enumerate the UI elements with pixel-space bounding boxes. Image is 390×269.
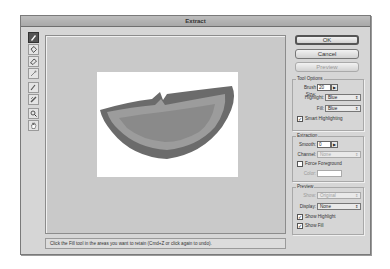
channel-label: Channel: [294,151,316,158]
eyedropper-icon [30,70,37,77]
edge-touchup-tool[interactable] [28,94,39,105]
tool-options-group: Tool Options Brush Size: 20 ▶ Highlight:… [292,79,364,131]
preview-options-group: Preview Show: Original⇕ Display: None⇕ ✓… [292,187,364,235]
channel-select[interactable]: None⇕ [317,151,361,158]
updown-arrow-icon: ⇕ [355,106,358,111]
highlight-value: Blue [328,95,337,100]
show-highlight-checkbox[interactable]: ✓ [297,214,303,220]
ok-button[interactable]: OK [295,35,359,45]
eraser-tool[interactable] [28,56,39,67]
hand-icon [30,122,37,129]
extraction-group: Extraction Smooth: 0 ▶ Channel: None⇕ Fo… [292,136,364,182]
fill-select[interactable]: Blue⇕ [325,105,361,112]
edge-highlighter-tool[interactable] [28,32,39,43]
cancel-button[interactable]: Cancel [295,49,359,59]
channel-value: None [320,152,331,157]
color-swatch[interactable] [317,170,342,177]
window-title[interactable]: Extract [21,16,370,27]
toolbar [28,32,39,132]
force-foreground-checkbox[interactable] [297,161,303,167]
show-fill-label: Show Fill [305,222,324,229]
display-value: None [320,204,331,209]
show-fill-checkbox[interactable]: ✓ [297,223,303,229]
image-canvas[interactable] [97,72,238,177]
edge-highlighter-icon [30,34,37,41]
display-select[interactable]: None⇕ [317,203,361,210]
updown-arrow-icon: ⇕ [355,193,358,198]
smooth-input[interactable]: 0 [317,141,331,148]
edge-touchup-icon [30,96,37,103]
preview-button[interactable]: Preview [295,62,359,72]
fill-label: Fill: [294,105,324,112]
smart-highlighting-checkbox[interactable]: ✓ [297,116,303,122]
hand-tool[interactable] [28,120,39,131]
display-label: Display: [294,203,316,210]
highlight-label: Highlight: [294,94,324,101]
color-label: Color: [294,170,316,177]
extraction-title: Extraction [296,133,318,138]
show-select[interactable]: Original⇕ [317,192,361,199]
updown-arrow-icon: ⇕ [355,152,358,157]
zoom-tool[interactable] [28,108,39,119]
eraser-icon [30,58,37,65]
updown-arrow-icon: ⇕ [355,95,358,100]
extract-dialog: Extract [20,15,371,255]
smooth-label: Smooth: [294,141,316,148]
force-foreground-label: Force Foreground [305,160,342,167]
tool-options-title: Tool Options [296,76,324,81]
fill-tool[interactable] [28,44,39,55]
cleanup-tool[interactable] [28,82,39,93]
updown-arrow-icon: ⇕ [355,204,358,209]
eyedropper-tool[interactable] [28,68,39,79]
brush-size-input[interactable]: 20 [317,84,331,91]
highlight-select[interactable]: Blue⇕ [325,94,361,101]
magnifier-icon [30,110,37,117]
fill-value: Blue [328,106,337,111]
show-highlight-label: Show Highlight [305,213,336,220]
preview-area[interactable] [45,35,286,234]
status-bar: Click the Fill tool in the areas you wan… [45,238,286,249]
smart-highlighting-label: Smart Highlighting [305,115,343,122]
triangle-right-icon: ▶ [333,142,336,147]
show-value: Original [320,193,336,198]
paint-bucket-icon [30,46,37,53]
preview-options-title: Preview [296,184,314,189]
orange-slice-image [97,72,238,177]
cleanup-icon [30,84,37,91]
triangle-right-icon: ▶ [333,85,336,90]
smooth-slider-button[interactable]: ▶ [331,141,338,148]
show-label: Show: [294,192,316,199]
brush-size-slider-button[interactable]: ▶ [331,84,338,91]
